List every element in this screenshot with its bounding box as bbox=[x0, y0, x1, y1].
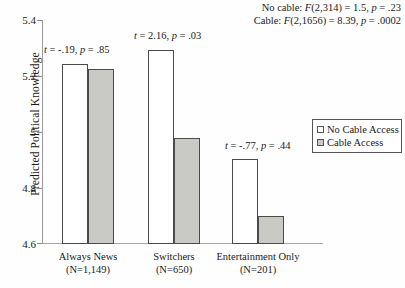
x-category-name-switchers: Switchers bbox=[153, 251, 194, 262]
legend-label-no-cable-access: No Cable Access bbox=[327, 123, 399, 136]
statistic-f-cable: Cable: F(2,1656) = 8.39, p = .0002 bbox=[254, 15, 401, 28]
y-tick-label-5: 5 bbox=[10, 127, 36, 137]
bar-always-news-no-cable bbox=[62, 64, 88, 244]
statistics-block: No cable: F(2,314) = 1.5, p = .23 Cable:… bbox=[254, 2, 401, 27]
x-category-count-always-news: (N=1,149) bbox=[38, 263, 138, 276]
bar-switchers-no-cable bbox=[148, 50, 174, 244]
x-category-name-always-news: Always News bbox=[59, 251, 118, 262]
statistic-f-no-cable: No cable: F(2,314) = 1.5, p = .23 bbox=[254, 2, 401, 15]
x-category-label-always-news: Always News (N=1,149) bbox=[38, 250, 138, 276]
bar-entertainment-only-no-cable bbox=[232, 159, 258, 244]
bar-always-news-cable bbox=[88, 69, 114, 244]
bar-entertainment-only-cable bbox=[258, 216, 284, 244]
bar-switchers-cable bbox=[174, 138, 200, 244]
legend-label-cable-access: Cable Access bbox=[327, 136, 383, 149]
y-axis-line bbox=[42, 20, 43, 244]
x-category-label-entertainment-only: Entertainment Only (N=201) bbox=[203, 250, 313, 276]
y-tick-label-5.2: 5.2 bbox=[10, 71, 36, 81]
legend-swatch-icon-cable-access bbox=[317, 139, 324, 146]
annotation-t-entertainment-only: t = -.77, p = .44 bbox=[225, 140, 291, 151]
legend-swatch-icon-no-cable-access bbox=[317, 126, 324, 133]
x-category-name-entertainment-only: Entertainment Only bbox=[216, 251, 299, 262]
y-tick-label-4.6: 4.6 bbox=[10, 239, 36, 249]
y-axis-tick-labels: 5.4 5.2 5 4.8 4.6 bbox=[6, 0, 36, 288]
legend-item-cable-access: Cable Access bbox=[317, 136, 398, 149]
legend-item-no-cable-access: No Cable Access bbox=[317, 123, 398, 136]
y-tick-label-5.4: 5.4 bbox=[10, 15, 36, 25]
x-category-count-entertainment-only: (N=201) bbox=[203, 263, 313, 276]
annotation-t-switchers: t = 2.16, p = .03 bbox=[134, 30, 201, 41]
annotation-t-always-news: t = -.19, p = .85 bbox=[44, 44, 110, 55]
bar-chart-figure: Predicted Political Knowledge 5.4 5.2 5 … bbox=[0, 0, 405, 288]
chart-legend: No Cable Access Cable Access bbox=[312, 119, 402, 153]
y-tick-label-4.8: 4.8 bbox=[10, 183, 36, 193]
